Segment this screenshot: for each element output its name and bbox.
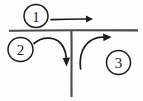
movement-1-group: 1	[24, 5, 93, 28]
movement-2-number: 2	[17, 42, 25, 58]
movement-2-arrowhead	[63, 58, 70, 67]
major-road-horizontal	[9, 30, 138, 31]
movement-1-arrowhead	[86, 16, 93, 23]
movement-3-arrowhead	[103, 33, 112, 41]
movement-1-number: 1	[32, 9, 40, 25]
movement-3-number: 3	[115, 55, 123, 71]
movement-1-arrow-shaft	[51, 19, 86, 20]
movement-3-group: 3	[80, 33, 130, 74]
movement-2-group: 2	[8, 38, 70, 67]
movement-2-arrow-shaft	[34, 38, 66, 58]
diagram-canvas: 1 2 3	[0, 0, 143, 101]
movement-3-arrow-shaft	[80, 37, 104, 69]
t-junction-diagram: 1 2 3	[0, 0, 143, 101]
